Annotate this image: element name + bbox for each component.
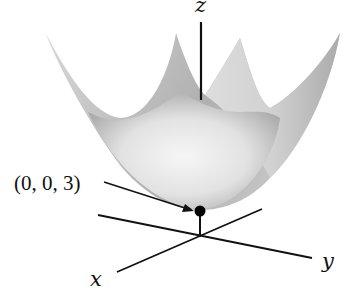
vertex-label: (0, 0, 3) [14, 171, 81, 195]
x-axis [117, 209, 262, 272]
vertex-point [195, 206, 206, 217]
paraboloid-figure: z x y (0, 0, 3) [0, 0, 350, 306]
z-axis-label: z [194, 0, 207, 17]
y-axis-label: y [321, 249, 335, 273]
x-axis-label: x [90, 267, 102, 291]
y-axis [98, 215, 312, 258]
